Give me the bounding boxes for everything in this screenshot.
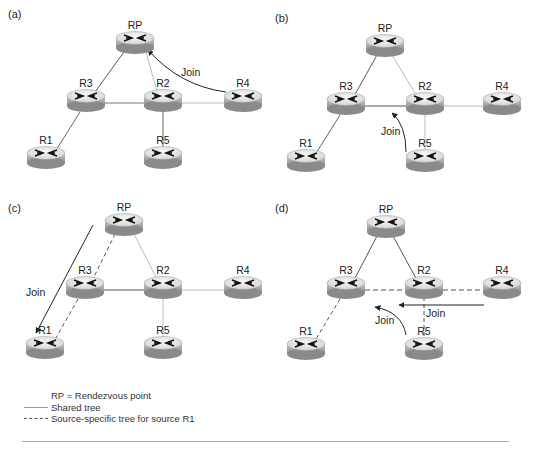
- panel-c: [36, 225, 224, 343]
- router-label-r2: R2: [156, 77, 170, 89]
- router-icon: [406, 150, 444, 173]
- router-label-r3: R3: [339, 264, 353, 276]
- legend-source: Source-specific tree for source R1: [24, 413, 195, 425]
- router-icon: [144, 90, 182, 113]
- router-label-r3: R3: [79, 77, 93, 89]
- router-icon: [67, 90, 105, 113]
- router-label-r5: R5: [418, 137, 432, 149]
- router-label-r1: R1: [38, 324, 52, 336]
- link-rp-r2: [393, 236, 418, 282]
- router-icon: [144, 337, 182, 360]
- router-icon: [405, 277, 443, 300]
- router-label-r3: R3: [339, 80, 353, 92]
- router-label-r5: R5: [156, 324, 170, 336]
- routers-layer: [26, 32, 521, 361]
- router-icon: [406, 93, 444, 116]
- router-icon: [483, 93, 521, 116]
- link-rp-r3-source: [92, 234, 115, 281]
- router-icon: [26, 337, 64, 360]
- router-icon: [367, 216, 405, 239]
- router-icon: [66, 277, 104, 300]
- router-icon: [144, 277, 182, 300]
- legend-shared-text: Shared tree: [51, 402, 101, 414]
- router-label-rp: RP: [128, 19, 143, 31]
- router-icon: [27, 147, 65, 170]
- router-icon: [327, 93, 365, 116]
- legend: RP = Rendezvous point Shared tree Source…: [24, 390, 195, 425]
- legend-source-text: Source-specific tree for source R1: [51, 413, 195, 425]
- legend-shared: Shared tree: [24, 402, 195, 414]
- router-label-r1: R1: [299, 137, 313, 149]
- pim-diagram: (a)RPR3R2R4R1R5Join(b)RPR3R2R4R1R5Join(c…: [0, 0, 539, 451]
- panel-label-b: (b): [275, 12, 288, 24]
- router-label-rp: RP: [117, 201, 132, 213]
- link-r3-r1-source: [53, 299, 78, 343]
- solid-line-swatch: [24, 407, 48, 408]
- legend-rp: RP = Rendezvous point: [24, 390, 195, 402]
- link-rp-r3: [92, 52, 124, 96]
- router-label-rp: RP: [379, 203, 394, 215]
- router-icon: [116, 32, 154, 55]
- router-icon: [144, 147, 182, 170]
- link-r3-r1-source: [313, 299, 340, 344]
- panel-label-a: (a): [8, 8, 21, 20]
- link-rp-r3: [353, 55, 377, 98]
- join-label: Join: [381, 125, 400, 137]
- router-label-rp: RP: [378, 22, 393, 34]
- router-icon: [224, 90, 262, 113]
- link-rp-r2: [134, 234, 158, 281]
- router-icon: [287, 150, 325, 173]
- router-label-r4: R4: [236, 264, 250, 276]
- panel-label-c: (c): [8, 202, 21, 214]
- divider: [22, 441, 509, 442]
- router-label-r4: R4: [236, 77, 250, 89]
- link-rp-r2: [392, 55, 418, 98]
- link-rp-r3: [353, 236, 377, 282]
- router-icon: [366, 35, 404, 58]
- router-label-r4: R4: [495, 80, 509, 92]
- router-label-r1: R1: [39, 134, 53, 146]
- router-label-r3: R3: [78, 264, 92, 276]
- router-icon: [105, 214, 143, 237]
- join-label: Join: [375, 314, 394, 326]
- router-label-r5: R5: [417, 325, 431, 337]
- dashed-line-swatch: [24, 418, 48, 419]
- router-icon: [483, 277, 521, 300]
- join-label: Join: [26, 286, 45, 298]
- router-icon: [224, 277, 262, 300]
- join-label: Join: [426, 307, 445, 319]
- router-icon: [405, 338, 443, 361]
- join-label: Join: [181, 66, 200, 78]
- router-label-r4: R4: [495, 264, 509, 276]
- router-icon: [287, 338, 325, 361]
- legend-rp-text: RP = Rendezvous point: [51, 390, 151, 402]
- router-label-r2: R2: [417, 264, 431, 276]
- router-label-r2: R2: [418, 80, 432, 92]
- panel-label-d: (d): [275, 202, 288, 214]
- router-label-r5: R5: [156, 134, 170, 146]
- router-icon: [327, 277, 365, 300]
- router-label-r1: R1: [299, 325, 313, 337]
- router-label-r2: R2: [156, 264, 170, 276]
